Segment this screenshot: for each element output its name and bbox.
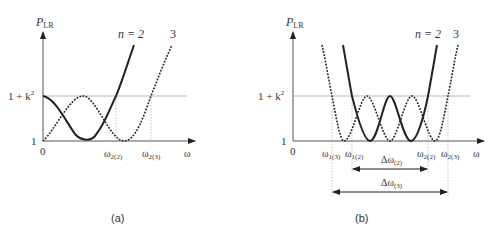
x-origin: 0 xyxy=(290,145,296,157)
y-axis-label: PLR xyxy=(285,15,304,30)
y-tick-1-plus-k2: 1 + k2 xyxy=(8,89,35,102)
curve-label-n2: n = 2 xyxy=(118,27,144,41)
caption-b: (b) xyxy=(355,212,368,224)
x-tick-w2-3: ω2(3) xyxy=(142,148,161,161)
y-tick-1-plus-k2: 1 + k2 xyxy=(258,89,285,102)
x-tick-w1-2: ω1(2) xyxy=(345,148,364,161)
x-tick-w1-3: ω1(3) xyxy=(322,148,341,161)
bandwidth-label-n2: Δω(2) xyxy=(381,154,403,167)
x-tick-w2-2: ω2(2) xyxy=(104,148,123,161)
curve-n2 xyxy=(43,45,134,140)
y-tick-1: 1 xyxy=(281,135,287,147)
x-axis-label: ω xyxy=(473,148,480,159)
curve-n3 xyxy=(322,45,458,141)
curve-n3 xyxy=(43,45,172,141)
curve-label-n3: 3 xyxy=(453,27,459,41)
panel-a: PLR 1 + k2 1 0 ω ω2(2) ω2(3) n = 2 3 (a) xyxy=(8,15,195,224)
figure: PLR 1 + k2 1 0 ω ω2(2) ω2(3) n = 2 3 (a)… xyxy=(0,0,494,237)
x-axis-label: ω xyxy=(184,148,191,159)
x-tick-w2-2: ω2(2) xyxy=(417,148,436,161)
y-tick-1: 1 xyxy=(31,135,37,147)
panel-b: PLR 1 + k2 1 0 ω ω1(3) ω1(2) ω2(2) ω2(3)… xyxy=(258,15,484,224)
curve-label-n3: 3 xyxy=(170,27,176,41)
x-origin: 0 xyxy=(40,145,46,157)
y-axis-label: PLR xyxy=(35,15,54,30)
bandwidth-label-n3: Δω(3) xyxy=(381,177,403,190)
x-tick-w2-3: ω2(3) xyxy=(441,148,460,161)
caption-a: (a) xyxy=(111,212,124,224)
curve-n2 xyxy=(343,45,437,141)
curve-label-n2: n = 2 xyxy=(415,27,441,41)
